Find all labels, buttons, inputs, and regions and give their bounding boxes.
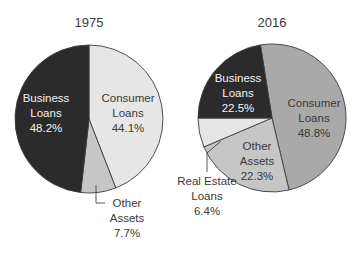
label-real-estate-2016-pct: 6.4%	[194, 205, 220, 217]
label-business-2016-line1: Business	[215, 72, 262, 84]
chart-title-2016: 2016	[258, 15, 287, 30]
label-other-1975-line2: Assets	[110, 212, 145, 224]
label-consumer-1975-line1: Consumer	[101, 92, 154, 104]
label-other-2016-pct: 22.3%	[241, 170, 274, 182]
label-consumer-1975-line2: Loans	[112, 107, 144, 119]
label-other-1975-line1: Other	[113, 197, 142, 209]
pie-charts: 1975 Business Loans 48.2% Consumer Loans…	[0, 0, 360, 253]
pie-1975	[15, 45, 163, 193]
label-consumer-1975-pct: 44.1%	[112, 122, 145, 134]
label-business-2016-pct: 22.5%	[222, 102, 255, 114]
label-business-1975-pct: 48.2%	[30, 122, 63, 134]
label-other-2016-line1: Other	[243, 140, 272, 152]
label-consumer-2016-line2: Loans	[298, 112, 330, 124]
label-business-1975-line1: Business	[23, 92, 70, 104]
label-other-1975-pct: 7.7%	[114, 227, 140, 239]
label-other-2016-line2: Assets	[240, 155, 275, 167]
chart-title-1975: 1975	[75, 15, 104, 30]
label-real-estate-2016-line2: Loans	[191, 190, 223, 202]
label-real-estate-2016-line1: Real Estate	[177, 175, 236, 187]
label-business-1975-line2: Loans	[30, 107, 62, 119]
label-consumer-2016-pct: 48.8%	[298, 127, 331, 139]
label-business-2016-line2: Loans	[222, 87, 254, 99]
label-consumer-2016-line1: Consumer	[287, 97, 340, 109]
